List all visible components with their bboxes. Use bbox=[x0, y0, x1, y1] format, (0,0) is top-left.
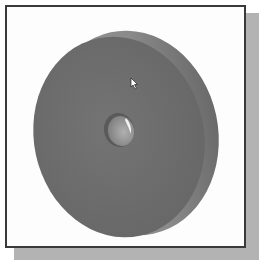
model-scene[interactable] bbox=[0, 0, 262, 264]
